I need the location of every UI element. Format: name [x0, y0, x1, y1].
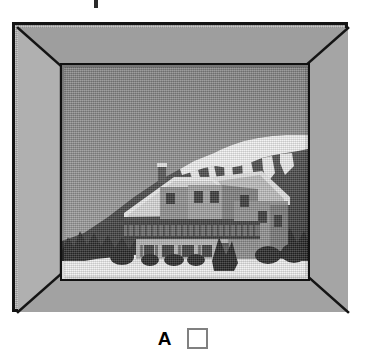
- answer-checkbox[interactable]: [187, 328, 208, 349]
- picture-frame: [12, 22, 348, 312]
- chalet-balcony-rail-bottom: [124, 236, 260, 239]
- mitre-top-right: [305, 28, 348, 66]
- option-letter-label: A: [158, 329, 172, 348]
- mitre-top-left: [18, 28, 61, 66]
- answer-option-row: A: [0, 324, 366, 352]
- chalet-right-wall-shadow: [270, 205, 288, 251]
- frame-band-left: [18, 28, 61, 312]
- frame-band-right: [305, 28, 348, 312]
- chalet-chimney-cap: [157, 163, 167, 167]
- frame-band-top: [18, 28, 348, 66]
- clipped-text-fragment: [94, 0, 98, 8]
- mitre-bottom-right: [305, 274, 348, 312]
- mitre-bottom-left: [18, 274, 61, 312]
- chalet-balcony-rail-top: [124, 221, 260, 225]
- photograph-artwork: [62, 65, 308, 279]
- chalet-balcony: [124, 225, 260, 236]
- alpine-chalet-photograph: [60, 63, 310, 281]
- chalet-chimney: [158, 165, 166, 183]
